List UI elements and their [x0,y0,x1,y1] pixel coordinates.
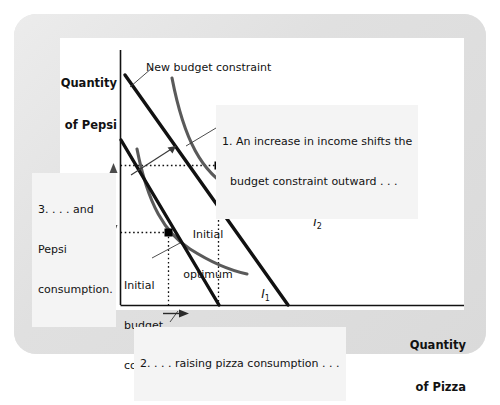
y-axis-title: Quantity of Pepsi [55,48,117,160]
callout-step3-line1: 3. . . . and [38,203,110,216]
callout-step2: 2. . . . raising pizza consumption . . . [134,327,346,401]
y-axis-title-line2: of Pepsi [55,118,117,132]
x-axis-title-line1: Quantity [404,338,466,352]
initial-optimum-label-line1: Initial [176,228,240,241]
i2-subscript: 2 [317,222,322,231]
initial-budget-constraint-line1: Initial [124,279,179,292]
callout-step2-text: 2. . . . raising pizza consumption . . . [140,357,340,370]
x-axis-title: Quantity of Pizza [404,310,466,405]
indifference-curve-i1-label: I1 [246,272,270,318]
callout-step1: 1. An increase in income shifts the budg… [216,105,418,219]
x-axis-title-line2: of Pizza [404,380,466,394]
initial-optimum-label-line2: optimum [176,268,240,281]
callout-step3-line3: consumption. [38,283,110,296]
callout-step1-line2: budget constraint outward . . . [222,175,412,188]
callout-step3-line2: Pepsi [38,243,110,256]
i1-subscript: 1 [265,294,270,303]
initial-optimum-marker [165,229,173,237]
callout-step1-line1: 1. An increase in income shifts the [222,135,412,148]
callout-step3: 3. . . . and Pepsi consumption. [32,173,116,327]
new-budget-constraint-label: New budget constraint [146,61,271,74]
y-axis-title-line1: Quantity [55,76,117,90]
